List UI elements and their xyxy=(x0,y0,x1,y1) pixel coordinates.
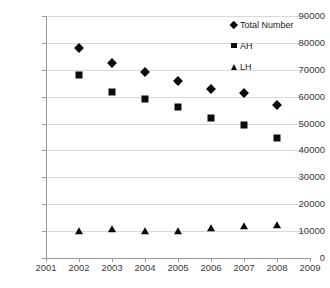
data-point-marker xyxy=(174,227,182,234)
x-axis-tick-mark xyxy=(145,258,146,262)
data-point-marker xyxy=(240,222,248,229)
triangle-marker-icon xyxy=(228,61,240,73)
y-axis-tick-mark xyxy=(42,231,46,232)
legend-label: LH xyxy=(240,62,252,72)
y-axis-tick-mark xyxy=(42,43,46,44)
data-point-marker xyxy=(208,114,215,121)
x-axis-tick-mark xyxy=(211,258,212,262)
data-point-marker xyxy=(75,227,83,234)
legend-item-ah: AH xyxy=(228,35,322,56)
y-axis-tick-label: 30000 xyxy=(283,172,325,182)
y-axis-line xyxy=(46,16,47,259)
legend-label: Total Number xyxy=(240,20,294,30)
y-axis-tick-mark xyxy=(42,16,46,17)
legend-label: AH xyxy=(240,41,253,51)
data-point-marker xyxy=(109,88,116,95)
x-axis-tick-label: 2009 xyxy=(290,262,330,274)
y-axis-tick-label: 10000 xyxy=(283,226,325,236)
data-point-marker xyxy=(76,72,83,79)
data-point-marker xyxy=(175,104,182,111)
y-axis-tick-mark xyxy=(42,150,46,151)
data-point-marker xyxy=(273,221,281,228)
data-point-marker xyxy=(274,134,281,141)
legend: Total Number AH LH xyxy=(228,14,322,77)
gridline xyxy=(46,177,310,178)
x-axis-tick-mark xyxy=(79,258,80,262)
x-axis-tick-mark xyxy=(310,258,311,262)
legend-item-lh: LH xyxy=(228,56,322,77)
gridline xyxy=(46,204,310,205)
y-axis-tick-mark xyxy=(42,124,46,125)
x-axis-tick-mark xyxy=(178,258,179,262)
diamond-marker-icon xyxy=(228,19,240,31)
gridline xyxy=(46,124,310,125)
data-point-marker xyxy=(108,225,116,232)
x-axis-tick-mark xyxy=(112,258,113,262)
y-axis-tick-mark xyxy=(42,177,46,178)
x-axis-tick-mark xyxy=(277,258,278,262)
y-axis-tick-label: 50000 xyxy=(283,119,325,129)
square-marker-icon xyxy=(228,40,240,52)
data-point-marker xyxy=(207,225,215,232)
gridline xyxy=(46,97,310,98)
gridline xyxy=(46,150,310,151)
x-axis-tick-mark xyxy=(244,258,245,262)
legend-item-total-number: Total Number xyxy=(228,14,322,35)
y-axis-tick-mark xyxy=(42,204,46,205)
y-axis-tick-label: 40000 xyxy=(283,145,325,155)
y-axis-tick-label: 20000 xyxy=(283,199,325,209)
y-axis-tick-mark xyxy=(42,97,46,98)
y-axis-tick-mark xyxy=(42,70,46,71)
y-axis-tick-label: 60000 xyxy=(283,92,325,102)
data-point-marker xyxy=(141,227,149,234)
x-axis-tick-mark xyxy=(46,258,47,262)
data-point-marker xyxy=(241,121,248,128)
data-point-marker xyxy=(142,96,149,103)
